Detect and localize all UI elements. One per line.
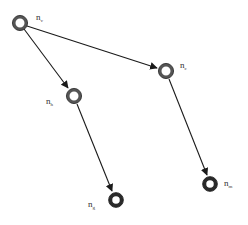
node-ring-icon: [68, 90, 80, 102]
edge-nc-nm: [169, 79, 207, 175]
edge-nh-ng: [77, 104, 112, 191]
node-nh: [66, 88, 81, 103]
directed-graph-diagram: nv nc nh ng nm: [0, 0, 248, 225]
node-nc: [158, 63, 173, 78]
node-nv: [12, 15, 27, 30]
edge-nv-nh: [24, 29, 68, 88]
node-ring-icon: [111, 195, 122, 206]
label-ng: ng: [88, 199, 96, 210]
node-ring-icon: [14, 17, 26, 29]
label-nm: nm: [224, 178, 233, 189]
label-nh: nh: [46, 96, 54, 107]
node-nm: [203, 177, 218, 192]
node-ring-icon: [205, 179, 216, 190]
label-nc: nc: [180, 60, 188, 71]
node-ng: [109, 193, 124, 208]
node-ring-icon: [160, 65, 172, 77]
label-nv: nv: [36, 12, 44, 23]
edge-nv-nc: [27, 26, 157, 68]
